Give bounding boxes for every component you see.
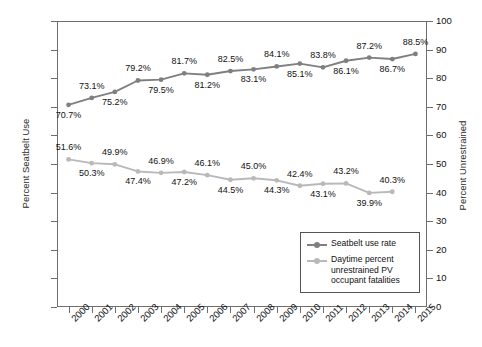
tick-label: 30 — [436, 216, 464, 226]
chart-legend: Seatbelt use rateDaytime percent unrestr… — [300, 232, 420, 293]
legend-marker-icon — [307, 255, 327, 266]
data-label: 51.6% — [56, 143, 82, 152]
data-label: 87.2% — [356, 42, 382, 51]
tick-mark — [427, 78, 433, 79]
dual-axis-line-chart: Percent Seatbelt Use Percent Unrestraine… — [0, 0, 482, 347]
data-label: 73.1% — [79, 82, 105, 91]
tick-label: 100 — [436, 16, 464, 26]
tick-mark — [161, 307, 162, 313]
tick-mark — [51, 278, 57, 279]
tick-mark — [369, 307, 370, 313]
data-label: 84.1% — [264, 50, 290, 59]
tick-mark — [427, 107, 433, 108]
tick-mark — [138, 307, 139, 313]
data-label: 40.3% — [380, 176, 406, 185]
data-label: 50.3% — [79, 169, 105, 178]
data-label: 83.1% — [241, 75, 267, 84]
data-label: 79.2% — [125, 64, 151, 73]
data-label: 47.2% — [171, 178, 197, 187]
data-label: 79.5% — [148, 86, 174, 95]
legend-marker-icon — [307, 239, 327, 250]
tick-mark — [277, 307, 278, 313]
tick-mark — [51, 221, 57, 222]
data-label: 43.1% — [310, 190, 336, 199]
tick-mark — [230, 307, 231, 313]
legend-label: Daytime percent unrestrained PV occupant… — [331, 254, 413, 286]
tick-mark — [427, 164, 433, 165]
tick-mark — [427, 21, 433, 22]
tick-mark — [254, 307, 255, 313]
data-label: 81.7% — [171, 57, 197, 66]
data-label: 39.9% — [356, 199, 382, 208]
tick-mark — [184, 307, 185, 313]
tick-label: 90 — [436, 45, 464, 55]
data-label: 75.2% — [102, 98, 128, 107]
tick-mark — [51, 50, 57, 51]
tick-mark — [427, 250, 433, 251]
tick-mark — [51, 107, 57, 108]
tick-mark — [51, 135, 57, 136]
data-label: 85.1% — [287, 70, 313, 79]
tick-mark — [92, 307, 93, 313]
tick-mark — [392, 307, 393, 313]
data-label: 82.5% — [218, 55, 244, 64]
tick-label: 40 — [436, 188, 464, 198]
tick-mark — [427, 193, 433, 194]
data-label: 46.1% — [195, 159, 221, 168]
data-label: 46.9% — [148, 157, 174, 166]
tick-mark — [427, 221, 433, 222]
tick-mark — [51, 250, 57, 251]
data-label: 88.5% — [403, 38, 429, 47]
tick-mark — [51, 78, 57, 79]
data-label: 81.2% — [195, 81, 221, 90]
data-label: 42.4% — [287, 170, 313, 179]
tick-label: 70 — [436, 102, 464, 112]
tick-mark — [115, 307, 116, 313]
tick-label: 0 — [436, 302, 464, 312]
tick-label: 50 — [436, 159, 464, 169]
tick-mark — [427, 278, 433, 279]
y-axis-left-title: Percent Seatbelt Use — [20, 84, 31, 244]
legend-item[interactable]: Seatbelt use rate — [307, 238, 413, 250]
data-label: 86.7% — [380, 65, 406, 74]
legend-label: Seatbelt use rate — [331, 238, 396, 249]
data-label: 47.4% — [125, 177, 151, 186]
tick-mark — [69, 307, 70, 313]
tick-mark — [51, 21, 57, 22]
tick-mark — [51, 307, 57, 308]
tick-mark — [346, 307, 347, 313]
data-label: 86.1% — [333, 67, 359, 76]
tick-label: 60 — [436, 130, 464, 140]
tick-label: 10 — [436, 273, 464, 283]
data-label: 70.7% — [56, 111, 82, 120]
data-label: 83.8% — [310, 51, 336, 60]
tick-mark — [300, 307, 301, 313]
legend-item[interactable]: Daytime percent unrestrained PV occupant… — [307, 254, 413, 286]
tick-mark — [51, 164, 57, 165]
data-label: 49.9% — [102, 148, 128, 157]
data-label: 44.5% — [218, 186, 244, 195]
data-label: 45.0% — [241, 162, 267, 171]
tick-label: 20 — [436, 245, 464, 255]
data-label: 43.2% — [333, 167, 359, 176]
tick-mark — [427, 50, 433, 51]
tick-label: 80 — [436, 73, 464, 83]
tick-mark — [427, 135, 433, 136]
tick-mark — [415, 307, 416, 313]
tick-mark — [51, 193, 57, 194]
tick-mark — [207, 307, 208, 313]
data-label: 44.3% — [264, 186, 290, 195]
tick-mark — [323, 307, 324, 313]
